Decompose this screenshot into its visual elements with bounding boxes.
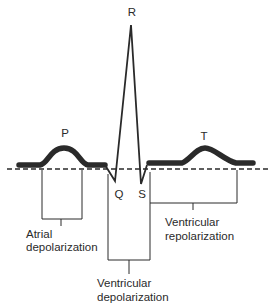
label-t: T [200,130,207,142]
atrial-bracket [42,170,82,226]
atrial-label-line1: Atrial [26,228,52,240]
ventricular-depol-label-line1: Ventricular [97,277,152,289]
ecg-diagram: R P T Q S Atrial depolarization Ventricu… [0,0,275,307]
t-wave [149,148,253,163]
label-p: P [61,127,69,139]
label-s: S [138,188,146,200]
ventricular-repolarization-bracket [150,170,237,210]
atrial-label-line2: depolarization [26,241,98,253]
ventricular-repol-label-line1: Ventricular [165,216,220,228]
label-r: R [128,6,136,18]
label-q: Q [115,188,124,200]
ventricular-depol-label-line2: depolarization [97,291,169,303]
p-wave [19,148,105,165]
ventricular-repol-label-line2: repolarization [165,230,234,242]
qrs-complex [105,25,147,184]
